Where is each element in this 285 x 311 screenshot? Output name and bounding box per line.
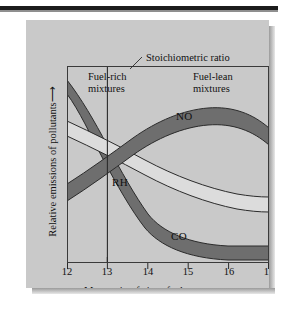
x-tick-label-14: 14 (138, 266, 158, 277)
plot-frame (67, 66, 269, 263)
stoichiometric-ratio-label: Stoichiometric ratio (146, 52, 230, 63)
card-bevel-right (269, 26, 275, 288)
x-tick-label-16: 16 (219, 266, 239, 277)
y-axis-title-text: Relative emissions of pollutants (47, 102, 58, 236)
top-divider-rule (0, 6, 278, 10)
figure-card: Stoichiometric ratio Fuel-rich mixtures … (26, 20, 269, 288)
plot-area: NO RH CO (67, 66, 269, 263)
card-bevel-bottom (32, 288, 275, 294)
y-axis-arrow-icon: ⟶ (47, 87, 58, 102)
y-axis-title: Relative emissions of pollutants⟶ (46, 72, 58, 252)
stoichiometric-leader-line (128, 56, 154, 70)
x-tick-label-15: 15 (178, 266, 198, 277)
x-tick-label-12: 12 (57, 266, 77, 277)
x-tick-label-13: 13 (97, 266, 117, 277)
